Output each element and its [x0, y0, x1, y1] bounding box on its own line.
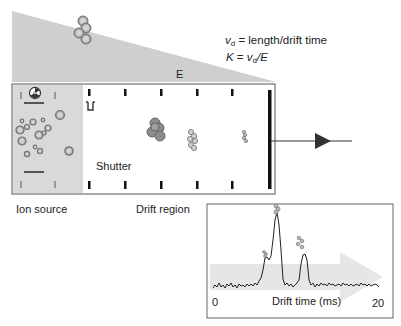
shutter-label: Shutter [96, 160, 131, 172]
x-axis-title: Drift time (ms) [272, 295, 341, 307]
vd-definition: = length/drift time [238, 34, 327, 46]
radiation-icon [30, 88, 41, 99]
collector-plate [268, 90, 272, 189]
mobility-equation: K = vd/E [226, 51, 268, 65]
drift-region-label: Drift region [136, 203, 190, 215]
arrow-right-icon [315, 133, 331, 149]
drift-tube-diagram [0, 0, 401, 326]
field-label: E [176, 68, 183, 80]
ion-source-label: Ion source [16, 203, 67, 215]
x-axis-max-label: 20 [372, 297, 384, 309]
x-axis-min-label: 0 [212, 296, 218, 308]
drift-velocity-equation: vd = length/drift time [225, 34, 327, 48]
